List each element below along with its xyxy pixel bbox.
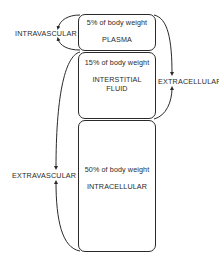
extracellular-arrow-lower (154, 88, 172, 119)
intravascular-arrow-upper (58, 15, 80, 28)
extravascular-label: EXTRAVASCULAR (12, 171, 76, 180)
intracellular-compartment: 50% of body weight INTRACELLULAR (78, 120, 156, 252)
interstitial-name-line2: FLUID (79, 84, 155, 93)
extravascular-arrow-upper (56, 52, 80, 168)
intravascular-arrow-lower (58, 39, 80, 50)
intracellular-name: INTRACELLULAR (79, 182, 155, 191)
interstitial-percent: 15% of body weight (79, 58, 155, 67)
plasma-percent: 5% of body weight (79, 18, 155, 27)
intravascular-label: INTRAVASCULAR (15, 29, 77, 38)
interstitial-compartment: 15% of body weight INTERSTITIAL FLUID (78, 52, 156, 119)
extracellular-label: EXTRACELLULAR (158, 77, 219, 86)
interstitial-name-line1: INTERSTITIAL (79, 75, 155, 84)
plasma-name: PLASMA (79, 35, 155, 44)
intracellular-percent: 50% of body weight (79, 165, 155, 174)
extravascular-arrow-lower (56, 182, 80, 251)
plasma-compartment: 5% of body weight PLASMA (78, 14, 156, 51)
extracellular-arrow-upper (154, 15, 172, 74)
